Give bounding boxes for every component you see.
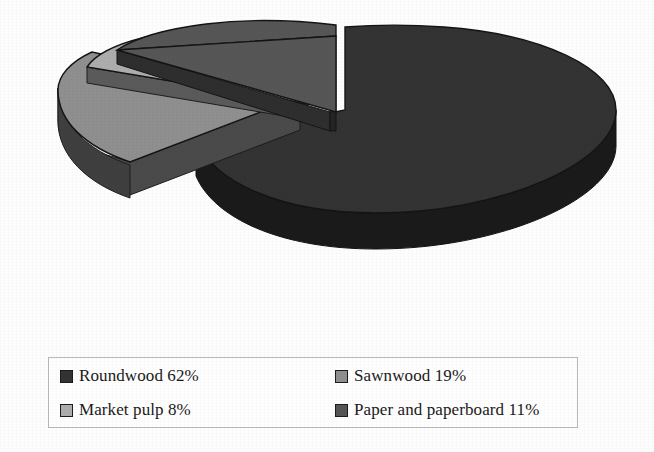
pie-chart-figure <box>0 0 654 300</box>
legend-label-paper-and-paperboard: Paper and paperboard 11% <box>354 401 539 418</box>
legend-swatch-market-pulp <box>60 404 73 417</box>
legend-swatch-paper-and-paperboard <box>335 404 348 417</box>
chart-page: Roundwood 62% Sawnwood 19% Market pulp 8… <box>0 0 654 452</box>
legend-swatch-sawnwood <box>335 370 348 383</box>
pie-chart-svg <box>0 0 654 300</box>
legend-label-sawnwood: Sawnwood 19% <box>354 367 466 384</box>
legend-label-market-pulp: Market pulp 8% <box>79 401 191 418</box>
legend-item-market-pulp[interactable]: Market pulp 8% <box>49 393 324 428</box>
chart-legend: Roundwood 62% Sawnwood 19% Market pulp 8… <box>48 357 578 428</box>
legend-swatch-roundwood <box>60 370 73 383</box>
legend-item-roundwood[interactable]: Roundwood 62% <box>49 358 324 393</box>
legend-item-paper-and-paperboard[interactable]: Paper and paperboard 11% <box>324 393 577 428</box>
legend-item-sawnwood[interactable]: Sawnwood 19% <box>324 358 577 393</box>
legend-label-roundwood: Roundwood 62% <box>79 367 199 384</box>
